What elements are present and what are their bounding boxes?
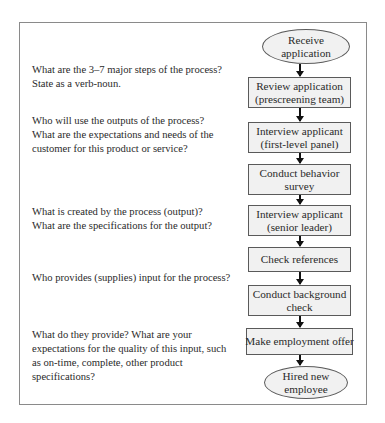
question-customer-outputs: Who will use the outputs of the process?… xyxy=(32,114,237,156)
question-line: What is created by the process (output)? xyxy=(32,205,237,219)
question-line: State as a verb-noun. xyxy=(32,77,237,91)
node-label: Conduct background xyxy=(253,288,347,301)
question-line: What are the 3–7 major steps of the proc… xyxy=(32,63,237,77)
flow-arrow xyxy=(299,64,301,76)
flow-step-behavior-survey: Conduct behavior survey xyxy=(248,164,351,195)
node-label: application xyxy=(281,47,331,60)
node-label: (prescreening team) xyxy=(255,93,344,106)
node-label: (first-level panel) xyxy=(261,138,339,151)
node-label: Receive xyxy=(288,34,324,47)
flow-end-hired-employee: Hired new employee xyxy=(264,366,348,399)
question-output-specs: What is created by the process (output)?… xyxy=(32,205,237,233)
flow-step-interview-senior-leader: Interview applicant (senior leader) xyxy=(248,205,351,236)
question-suppliers: Who provides (supplies) input for the pr… xyxy=(32,271,237,285)
question-line: What do they provide? What are your xyxy=(32,328,237,342)
node-label: Interview applicant xyxy=(256,125,343,138)
node-label: check xyxy=(286,301,312,314)
node-label: Make employment offer xyxy=(245,335,354,348)
node-label: Interview applicant xyxy=(256,208,343,221)
question-line: customer for this product or service? xyxy=(32,142,237,156)
flow-step-employment-offer: Make employment offer xyxy=(246,328,353,355)
question-line: Who will use the outputs of the process? xyxy=(32,114,237,128)
question-line: Who provides (supplies) input for the pr… xyxy=(32,271,237,285)
flow-arrow xyxy=(299,316,301,327)
node-label: Check references xyxy=(261,253,338,266)
flow-arrow xyxy=(299,236,301,246)
node-label: (senior leader) xyxy=(267,221,332,234)
question-line: What are the expectations and needs of t… xyxy=(32,128,237,142)
question-line: specifications? xyxy=(32,370,237,384)
flow-arrow xyxy=(299,153,301,163)
flow-start-receive-application: Receive application xyxy=(262,29,350,64)
flow-arrow xyxy=(299,195,301,204)
question-line: as on-time, complete, other product xyxy=(32,356,237,370)
node-label: survey xyxy=(285,180,315,193)
node-label: Review application xyxy=(256,80,343,93)
question-input-expectations: What do they provide? What are your expe… xyxy=(32,328,237,384)
flow-step-interview-first-level: Interview applicant (first-level panel) xyxy=(248,122,351,153)
flow-arrow xyxy=(299,108,301,121)
flow-step-review-application: Review application (prescreening team) xyxy=(248,77,351,108)
flow-step-check-references: Check references xyxy=(248,247,351,272)
node-label: Hired new xyxy=(283,370,330,383)
flow-arrow xyxy=(299,355,301,365)
question-line: What are the specifications for the outp… xyxy=(32,219,237,233)
flow-arrow xyxy=(299,272,301,284)
question-process-steps: What are the 3–7 major steps of the proc… xyxy=(32,63,237,91)
node-label: employee xyxy=(284,383,328,396)
question-line: expectations for the quality of this inp… xyxy=(32,342,237,356)
flow-step-background-check: Conduct background check xyxy=(248,285,351,316)
node-label: Conduct behavior xyxy=(260,167,340,180)
